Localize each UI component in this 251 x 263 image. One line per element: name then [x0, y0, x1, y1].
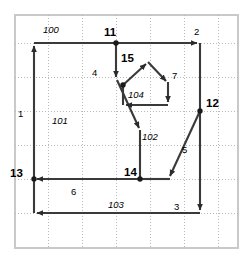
- edge-label-6: 6: [71, 186, 76, 197]
- node-dot-15[interactable]: [120, 82, 125, 87]
- node-dot-11[interactable]: [113, 40, 118, 45]
- node-dot-12[interactable]: [197, 108, 202, 113]
- node-label-14: 14: [124, 166, 137, 178]
- edge-label-7: 7: [172, 70, 177, 81]
- diagram-canvas: 100 11 2 15 7 4 104 12 1 101 102 5 13 14…: [0, 0, 251, 263]
- edge-label-4: 4: [92, 67, 97, 78]
- edge-label-5: 5: [182, 144, 187, 155]
- face-label-100: 100: [43, 24, 60, 35]
- face-label-101: 101: [52, 115, 68, 126]
- node-dot-14[interactable]: [137, 176, 142, 181]
- edge-n15-to-apex: [123, 64, 146, 85]
- face-label-103: 103: [108, 199, 125, 210]
- node-label-12: 12: [206, 97, 219, 109]
- graph-edges: [34, 43, 200, 213]
- node-dot-13[interactable]: [31, 176, 36, 181]
- face-label-102: 102: [142, 131, 159, 142]
- node-label-11: 11: [104, 26, 117, 38]
- node-label-15: 15: [121, 52, 134, 64]
- edge-apex-to-n7: [148, 62, 166, 81]
- edge-label-2: 2: [194, 26, 199, 37]
- edge-label-3: 3: [174, 201, 179, 212]
- graph-labels: 100 11 2 15 7 4 104 12 1 101 102 5 13 14…: [10, 24, 219, 212]
- node-label-13: 13: [10, 167, 23, 179]
- face-label-104: 104: [128, 89, 144, 100]
- network-diagram: 100 11 2 15 7 4 104 12 1 101 102 5 13 14…: [0, 0, 251, 263]
- edge-label-1: 1: [18, 108, 23, 119]
